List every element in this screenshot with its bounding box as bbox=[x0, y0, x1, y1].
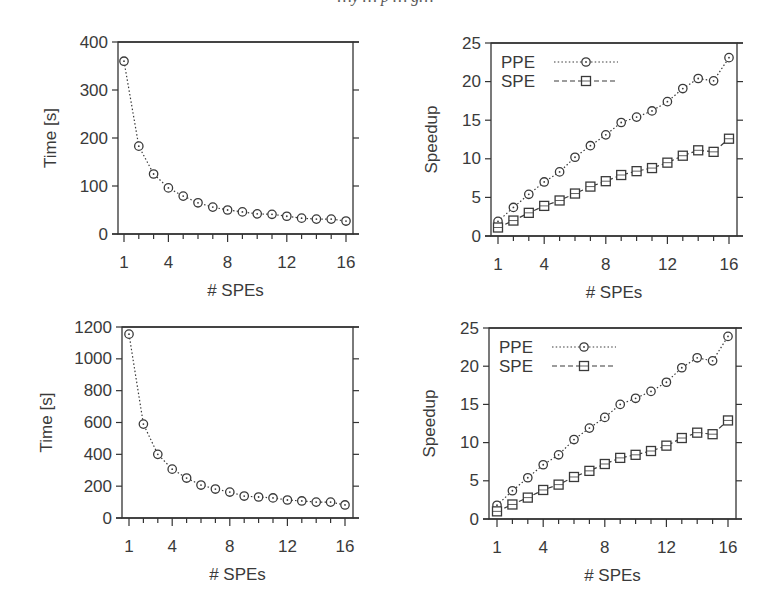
plot-frame bbox=[122, 327, 353, 518]
y-tick-label: 400 bbox=[80, 33, 108, 52]
marker-dot bbox=[256, 213, 258, 215]
x-tick-label: 16 bbox=[719, 538, 738, 557]
x-tick-label: 16 bbox=[720, 255, 739, 274]
marker-dot bbox=[171, 468, 173, 470]
y-tick-label: 25 bbox=[460, 319, 479, 338]
marker-dot bbox=[667, 101, 669, 103]
legend-marker-dot bbox=[583, 346, 585, 348]
y-tick-label: 5 bbox=[470, 471, 479, 490]
x-tick-label: 1 bbox=[492, 538, 501, 557]
legend-marker-dot bbox=[585, 61, 587, 63]
y-tick-label: 20 bbox=[460, 357, 479, 376]
marker-dot bbox=[573, 439, 575, 441]
marker-dot bbox=[527, 477, 529, 479]
x-tick-label: 1 bbox=[119, 253, 128, 272]
x-axis-label: # SPEs bbox=[207, 281, 264, 300]
marker-dot bbox=[727, 336, 729, 338]
legend-label-ppe: PPE bbox=[499, 338, 533, 357]
x-tick-label: 8 bbox=[601, 255, 610, 274]
marker-dot bbox=[258, 496, 260, 498]
marker-dot bbox=[604, 416, 606, 418]
x-tick-label: 12 bbox=[277, 253, 296, 272]
y-tick-label: 15 bbox=[462, 111, 481, 130]
y-tick-label: 1200 bbox=[74, 318, 112, 337]
y-tick-label: 0 bbox=[103, 509, 112, 528]
y-axis-label: Time [s] bbox=[37, 393, 56, 453]
marker-dot bbox=[345, 220, 347, 222]
marker-dot bbox=[123, 60, 125, 62]
y-axis-label: Speedup bbox=[422, 105, 441, 173]
y-tick-label: 300 bbox=[80, 81, 108, 100]
marker-dot bbox=[330, 501, 332, 503]
y-tick-label: 10 bbox=[460, 433, 479, 452]
y-axis-label: Speedup bbox=[420, 389, 439, 457]
time-series-line bbox=[129, 334, 345, 505]
chart-top-right: 05101520251481216# SPEsSpeedupPPESPE bbox=[422, 34, 743, 303]
legend-label-spe: SPE bbox=[501, 72, 535, 91]
legend-label-ppe: PPE bbox=[501, 53, 535, 72]
x-axis-label: # SPEs bbox=[586, 283, 643, 302]
x-tick-label: 1 bbox=[124, 537, 133, 556]
time-series-line bbox=[124, 61, 346, 221]
x-tick-label: 8 bbox=[600, 538, 609, 557]
x-tick-label: 1 bbox=[493, 255, 502, 274]
marker-dot bbox=[696, 357, 698, 359]
marker-dot bbox=[682, 88, 684, 90]
marker-dot bbox=[605, 134, 607, 136]
y-tick-label: 25 bbox=[462, 34, 481, 53]
marker-dot bbox=[243, 495, 245, 497]
y-tick-label: 10 bbox=[462, 149, 481, 168]
y-tick-label: 800 bbox=[84, 381, 112, 400]
marker-dot bbox=[330, 218, 332, 220]
y-tick-label: 15 bbox=[460, 395, 479, 414]
y-tick-label: 0 bbox=[472, 227, 481, 246]
marker-dot bbox=[558, 454, 560, 456]
marker-dot bbox=[528, 193, 530, 195]
marker-dot bbox=[138, 145, 140, 147]
marker-dot bbox=[186, 477, 188, 479]
x-tick-label: 8 bbox=[225, 537, 234, 556]
marker-dot bbox=[650, 391, 652, 393]
x-tick-label: 4 bbox=[164, 253, 173, 272]
marker-dot bbox=[143, 423, 145, 425]
marker-dot bbox=[316, 218, 318, 220]
marker-dot bbox=[286, 215, 288, 217]
y-tick-label: 20 bbox=[462, 72, 481, 91]
marker-dot bbox=[543, 181, 545, 183]
marker-dot bbox=[301, 500, 303, 502]
x-tick-label: 4 bbox=[538, 538, 547, 557]
marker-dot bbox=[620, 122, 622, 124]
marker-dot bbox=[344, 504, 346, 506]
x-tick-label: 12 bbox=[278, 537, 297, 556]
y-tick-label: 5 bbox=[472, 188, 481, 207]
marker-dot bbox=[713, 80, 715, 82]
x-tick-label: 8 bbox=[223, 253, 232, 272]
legend-label-spe: SPE bbox=[499, 357, 533, 376]
x-tick-label: 4 bbox=[539, 255, 548, 274]
marker-dot bbox=[153, 173, 155, 175]
y-tick-label: 200 bbox=[80, 129, 108, 148]
y-tick-label: 0 bbox=[470, 510, 479, 529]
x-tick-label: 12 bbox=[658, 255, 677, 274]
marker-dot bbox=[666, 381, 668, 383]
plot-frame bbox=[118, 42, 353, 234]
chart-top-left: 01002003004001481216# SPEsTime [s] bbox=[41, 33, 359, 301]
marker-dot bbox=[497, 220, 499, 222]
marker-dot bbox=[697, 78, 699, 80]
marker-dot bbox=[182, 195, 184, 197]
marker-dot bbox=[215, 488, 217, 490]
marker-dot bbox=[513, 207, 515, 209]
y-axis-label: Time [s] bbox=[41, 108, 60, 168]
x-tick-label: 12 bbox=[657, 538, 676, 557]
marker-dot bbox=[712, 360, 714, 362]
marker-dot bbox=[574, 156, 576, 158]
marker-dot bbox=[496, 504, 498, 506]
x-tick-label: 16 bbox=[337, 253, 356, 272]
marker-dot bbox=[681, 367, 683, 369]
marker-dot bbox=[651, 110, 653, 112]
y-tick-label: 100 bbox=[80, 177, 108, 196]
x-axis-label: # SPEs bbox=[209, 565, 266, 584]
marker-dot bbox=[200, 484, 202, 486]
y-tick-label: 1000 bbox=[74, 349, 112, 368]
marker-dot bbox=[271, 213, 273, 215]
